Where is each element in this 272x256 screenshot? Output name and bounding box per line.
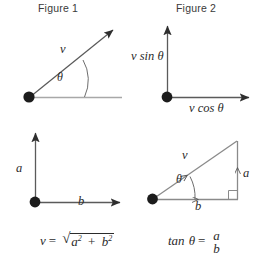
tangent-formula-equals: = xyxy=(198,233,205,249)
figure-3-horizontal-label: b xyxy=(78,194,84,209)
magnitude-formula: v = √ a2 + b2 xyxy=(40,232,114,250)
radicand: a2 + b2 xyxy=(70,233,114,250)
fraction: a b xyxy=(213,229,220,256)
fraction-denominator: b xyxy=(213,242,220,255)
figure-3-origin-dot xyxy=(30,197,41,208)
figure-4-origin-dot xyxy=(147,194,158,205)
figure-4-angle-label: θ xyxy=(176,172,182,187)
magnitude-formula-lhs: v xyxy=(40,233,46,249)
tangent-argument: θ xyxy=(189,233,195,249)
figure-2-geometry xyxy=(162,26,249,102)
figure-3-geometry xyxy=(30,133,120,207)
figure-1-geometry xyxy=(23,30,122,103)
diagram-board: Figure 1 Figure 2 v θ v sin θ v cos θ a … xyxy=(0,0,272,256)
radicand-term-2-exponent: 2 xyxy=(108,234,112,243)
figure-1-vector-arrow xyxy=(30,30,113,97)
tangent-function-name: tan xyxy=(168,233,185,249)
figure-4-vertical-label: a xyxy=(243,166,249,181)
figure-4-angle-arc xyxy=(190,177,195,200)
square-root: √ a2 + b2 xyxy=(62,232,114,250)
figure-4-geometry xyxy=(147,141,238,204)
radicand-plus-sign: + xyxy=(88,234,95,249)
figure-2-origin-dot xyxy=(162,92,173,103)
figure-2-horizontal-label: v cos θ xyxy=(189,101,224,116)
figure-4-right-angle-marker xyxy=(229,191,238,200)
figure-1-vector-label: v xyxy=(60,42,66,57)
magnitude-formula-equals: = xyxy=(49,233,56,249)
figure-4-horizontal-label: b xyxy=(195,199,201,214)
radical-sign: √ xyxy=(62,231,70,246)
figure-1-angle-label: θ xyxy=(57,70,63,85)
figure-1-angle-arc xyxy=(83,60,88,97)
figure-3-vertical-label: a xyxy=(16,161,22,176)
figure-2-vertical-label: v sin θ xyxy=(131,49,164,64)
radicand-term-1-exponent: 2 xyxy=(78,234,82,243)
figure-4-vector-label: v xyxy=(182,148,188,163)
figure-1-origin-dot xyxy=(23,91,34,102)
vector-diagrams-svg xyxy=(0,0,272,256)
fraction-numerator: a xyxy=(213,229,220,242)
figure-2-title: Figure 2 xyxy=(176,2,216,14)
tangent-formula: tan θ = a b xyxy=(168,228,220,255)
figure-1-title: Figure 1 xyxy=(38,2,78,14)
